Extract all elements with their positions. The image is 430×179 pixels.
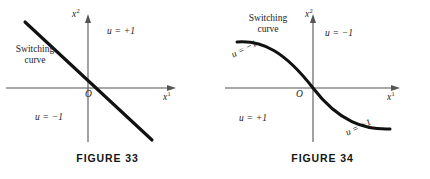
- switching-curve-label-line1: Switching: [16, 44, 55, 54]
- origin-label: O: [85, 89, 92, 99]
- y-axis: [310, 14, 316, 142]
- figure-33-svg: [0, 0, 215, 150]
- origin-label: O: [296, 89, 303, 99]
- region-label-upper-right: u = +1: [107, 26, 135, 36]
- switching-curve-label: Switching curve: [4, 44, 66, 66]
- figure-34: x2 x1 O Switching curve u = −1 u = +1 u …: [215, 0, 430, 179]
- switching-curve-label: Switching curve: [237, 13, 299, 35]
- switching-curve-label-line1: Switching: [249, 13, 288, 23]
- x-axis-label: x1: [387, 92, 395, 102]
- figure-pair: x2 x1 O Switching curve u = +1 u = −1 FI…: [0, 0, 430, 179]
- figure-33-plot: x2 x1 O Switching curve u = +1 u = −1: [0, 0, 215, 150]
- switching-curve-label-line2: curve: [257, 24, 278, 34]
- y-axis-label: x2: [305, 9, 313, 19]
- switching-curve-label-line2: curve: [24, 55, 45, 65]
- x-axis-label: x1: [163, 92, 171, 102]
- figure-33-caption: FIGURE 33: [0, 152, 215, 164]
- figure-33: x2 x1 O Switching curve u = +1 u = −1 FI…: [0, 0, 215, 179]
- y-axis-label: x2: [72, 9, 80, 19]
- figure-34-caption: FIGURE 34: [215, 152, 430, 164]
- region-label-lower-left: u = −1: [35, 112, 63, 122]
- figure-34-plot: x2 x1 O Switching curve u = −1 u = +1 u …: [215, 0, 430, 150]
- region-label-upper-right: u = −1: [325, 28, 353, 38]
- region-label-lower-left: u = +1: [239, 113, 267, 123]
